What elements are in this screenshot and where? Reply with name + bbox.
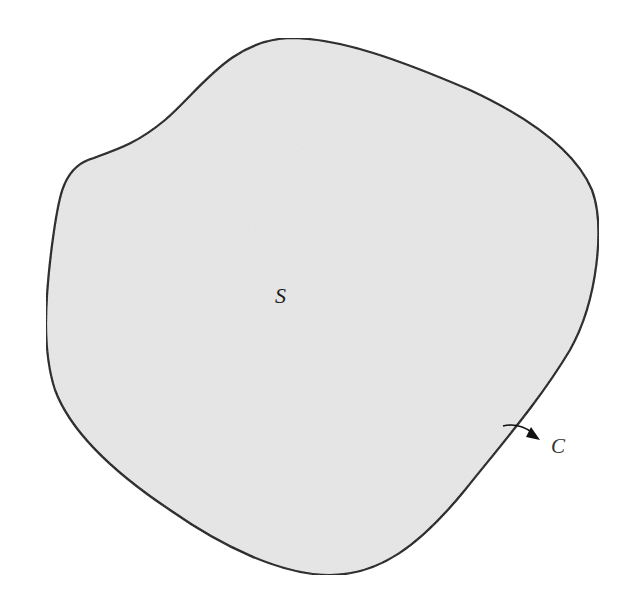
region-s-boundary-curve-c — [46, 38, 598, 575]
region-diagram — [0, 0, 628, 602]
curve-label-c: C — [551, 434, 565, 459]
region-label-s: S — [275, 283, 286, 309]
